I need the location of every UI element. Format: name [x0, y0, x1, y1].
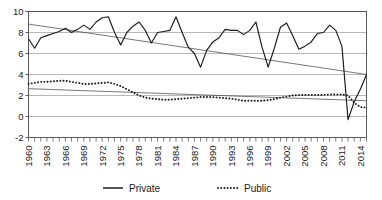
xtick-label-1978: 1978 — [133, 146, 144, 167]
chart-container: -20246810 196019631966196919721975197819… — [0, 0, 382, 200]
xtick-label-1996: 1996 — [244, 146, 255, 167]
xtick-label-1960: 1960 — [23, 146, 34, 167]
xtick-label-2008: 2008 — [318, 146, 329, 167]
xtick-label-1984: 1984 — [170, 146, 181, 167]
ytick-label-10: 10 — [13, 6, 24, 17]
ytick-label-2: 2 — [18, 90, 23, 101]
ytick-label-8: 8 — [18, 27, 23, 38]
xtick-label-2011: 2011 — [336, 146, 347, 166]
xtick-label-1963: 1963 — [41, 146, 52, 167]
ytick-label-0: 0 — [18, 111, 23, 122]
xtick-label-2005: 2005 — [299, 146, 310, 167]
legend-label-private: Private — [129, 183, 161, 194]
xtick-label-1969: 1969 — [78, 146, 89, 167]
xtick-label-1972: 1972 — [97, 146, 108, 167]
xtick-label-1966: 1966 — [60, 146, 71, 167]
xtick-label-2014: 2014 — [355, 146, 366, 167]
xtick-label-1999: 1999 — [262, 146, 273, 167]
xtick-label-1987: 1987 — [189, 146, 200, 167]
ytick-label-4: 4 — [18, 69, 23, 80]
ytick-label-6: 6 — [18, 48, 23, 59]
legend-label-public: Public — [244, 183, 271, 194]
ytick-label--2: -2 — [15, 132, 23, 143]
xtick-label-2002: 2002 — [281, 146, 292, 167]
xtick-label-1981: 1981 — [152, 146, 163, 167]
xtick-label-1993: 1993 — [226, 146, 237, 167]
line-chart: -20246810 196019631966196919721975197819… — [0, 0, 382, 200]
chart-background — [0, 0, 382, 200]
xtick-label-1990: 1990 — [207, 146, 218, 167]
xtick-label-1975: 1975 — [115, 146, 126, 167]
